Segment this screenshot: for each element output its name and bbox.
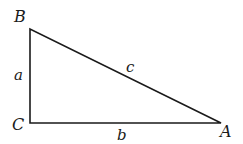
vertex-label-c: C — [12, 115, 24, 134]
vertex-label-b: B — [13, 7, 26, 26]
vertex-label-a: A — [218, 122, 232, 141]
side-label-a: a — [14, 66, 23, 84]
side-label-b: b — [117, 126, 127, 144]
side-label-c: c — [126, 58, 135, 76]
triangle-shape — [30, 29, 221, 123]
triangle-diagram: B C A a b c — [0, 0, 243, 144]
